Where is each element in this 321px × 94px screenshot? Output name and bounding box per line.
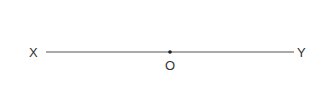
label-y: Y xyxy=(297,45,306,60)
point-o xyxy=(168,50,172,54)
line-diagram: X Y O xyxy=(0,0,321,94)
label-x: X xyxy=(29,45,38,60)
label-o: O xyxy=(165,58,175,73)
